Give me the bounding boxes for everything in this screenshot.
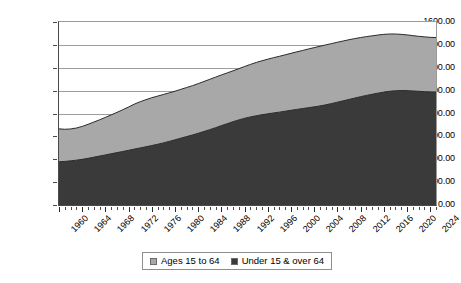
x-axis-tick-mark-minor	[297, 207, 298, 210]
legend-item-under-15-and-over-64: Under 15 & over 64	[231, 256, 324, 266]
y-axis-tick-mark	[53, 45, 57, 46]
x-axis-tick-mark-minor	[111, 207, 112, 210]
y-axis-tick-mark	[53, 136, 57, 137]
x-axis-tick-mark-minor	[285, 207, 286, 210]
x-axis-tick-mark-minor	[366, 207, 367, 210]
x-axis-tick-mark-major	[384, 207, 385, 212]
x-axis-tick-mark-minor	[279, 207, 280, 210]
x-axis-tick-label: 2024	[440, 213, 461, 234]
x-axis-tick-label: 2020	[417, 213, 438, 234]
x-axis-tick-mark-major	[430, 207, 431, 212]
y-axis-tick-mark	[53, 205, 57, 206]
x-axis-tick-mark-major	[337, 207, 338, 212]
x-axis-tick-mark-minor	[169, 207, 170, 210]
x-axis-tick-mark-minor	[210, 207, 211, 210]
x-axis-tick-mark-minor	[181, 207, 182, 210]
x-axis-tick-mark-minor	[88, 207, 89, 210]
legend-label: Under 15 & over 64	[242, 256, 324, 266]
x-axis: 1960196419681972197619801984198819921996…	[0, 207, 455, 252]
x-axis-tick-mark-minor	[390, 207, 391, 210]
x-axis-tick-mark-minor	[395, 207, 396, 210]
x-axis-tick-mark-major	[245, 207, 246, 212]
stacked-area-series	[59, 22, 436, 205]
x-axis-tick-mark-minor	[134, 207, 135, 210]
x-axis-tick-label: 2016	[394, 213, 415, 234]
y-axis-tick-mark	[53, 159, 57, 160]
x-axis-tick-mark-minor	[308, 207, 309, 210]
x-axis-tick-mark-minor	[419, 207, 420, 210]
x-axis-tick-mark-minor	[71, 207, 72, 210]
x-axis-tick-mark-minor	[146, 207, 147, 210]
x-axis-tick-label: 2008	[347, 213, 368, 234]
x-axis-tick-mark-minor	[256, 207, 257, 210]
x-axis-tick-label: 2012	[370, 213, 391, 234]
x-axis-tick-label: 1976	[162, 213, 183, 234]
x-axis-tick-mark-minor	[233, 207, 234, 210]
legend-label: Ages 15 to 64	[161, 256, 220, 266]
x-axis-tick-mark-minor	[216, 207, 217, 210]
x-axis-tick-mark-minor	[349, 207, 350, 210]
x-axis-tick-mark-minor	[204, 207, 205, 210]
x-axis-tick-label: 1996	[278, 213, 299, 234]
x-axis-tick-mark-major	[407, 207, 408, 212]
y-axis-tick-mark	[53, 182, 57, 183]
x-axis-tick-mark-major	[291, 207, 292, 212]
x-axis-tick-mark-minor	[187, 207, 188, 210]
x-axis-tick-mark-major	[129, 207, 130, 212]
x-axis-tick-mark-major	[152, 207, 153, 212]
x-axis-tick-mark-major	[361, 207, 362, 212]
x-axis-tick-mark-minor	[320, 207, 321, 210]
x-axis-tick-mark-minor	[332, 207, 333, 210]
x-axis-tick-mark-minor	[76, 207, 77, 210]
x-axis-tick-label: 1988	[231, 213, 252, 234]
x-axis-tick-mark-minor	[117, 207, 118, 210]
chart-legend: Ages 15 to 64 Under 15 & over 64	[142, 252, 332, 270]
y-axis-tick-mark	[53, 91, 57, 92]
legend-item-ages-15-to-64: Ages 15 to 64	[150, 256, 220, 266]
x-axis-tick-mark-minor	[163, 207, 164, 210]
x-axis-tick-mark-major	[175, 207, 176, 212]
x-axis-tick-label: 1984	[208, 213, 229, 234]
x-axis-tick-mark-minor	[123, 207, 124, 210]
y-axis-tick-mark	[53, 114, 57, 115]
x-axis-tick-mark-major	[59, 207, 60, 212]
x-axis-tick-mark-major	[82, 207, 83, 212]
legend-swatch-icon	[150, 258, 157, 265]
x-axis-tick-mark-minor	[100, 207, 101, 210]
x-axis-tick-mark-major	[221, 207, 222, 212]
x-axis-tick-mark-minor	[140, 207, 141, 210]
plot-area	[58, 21, 437, 206]
x-axis-tick-mark-minor	[413, 207, 414, 210]
x-axis-tick-label: 2004	[324, 213, 345, 234]
x-axis-tick-mark-minor	[343, 207, 344, 210]
x-axis-tick-mark-major	[268, 207, 269, 212]
x-axis-tick-label: 1960	[69, 213, 90, 234]
x-axis-tick-mark-minor	[227, 207, 228, 210]
x-axis-tick-mark-minor	[401, 207, 402, 210]
y-axis-tick-mark	[53, 22, 57, 23]
x-axis-tick-mark-minor	[262, 207, 263, 210]
x-axis-tick-mark-minor	[192, 207, 193, 210]
x-axis-tick-mark-minor	[355, 207, 356, 210]
x-axis-tick-mark-minor	[239, 207, 240, 210]
x-axis-tick-label: 1972	[138, 213, 159, 234]
x-axis-tick-mark-minor	[424, 207, 425, 210]
x-axis-tick-mark-major	[314, 207, 315, 212]
x-axis-tick-mark-minor	[378, 207, 379, 210]
x-axis-tick-label: 1980	[185, 213, 206, 234]
legend-swatch-icon	[231, 258, 238, 265]
x-axis-tick-mark-minor	[303, 207, 304, 210]
x-axis-tick-mark-minor	[158, 207, 159, 210]
x-axis-tick-mark-minor	[250, 207, 251, 210]
x-axis-tick-mark-minor	[372, 207, 373, 210]
x-axis-tick-mark-minor	[436, 207, 437, 210]
x-axis-tick-label: 1968	[115, 213, 136, 234]
x-axis-tick-label: 2000	[301, 213, 322, 234]
x-axis-tick-mark-minor	[326, 207, 327, 210]
x-axis-tick-mark-minor	[65, 207, 66, 210]
x-axis-tick-mark-minor	[94, 207, 95, 210]
y-axis-tick-mark	[53, 68, 57, 69]
x-axis-tick-label: 1964	[92, 213, 113, 234]
x-axis-tick-mark-minor	[274, 207, 275, 210]
